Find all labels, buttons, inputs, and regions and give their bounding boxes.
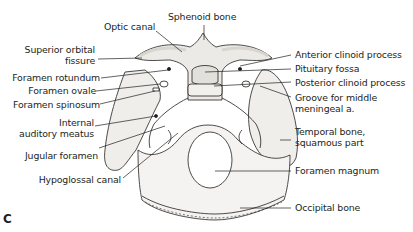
label-text: Temporal bone,: [295, 126, 365, 137]
label-posterior-clinoid-process: Posterior clinoid process: [295, 77, 405, 88]
label-text: Foramen spinosum: [13, 99, 100, 110]
label-text: Superior orbital: [25, 44, 95, 55]
label-foramen-spinosum: Foramen spinosum: [13, 99, 100, 110]
label-groove-middle-meningeal: Groove for middle meningeal a.: [295, 92, 377, 114]
label-hypoglossal-canal: Hypoglossal canal: [39, 174, 121, 185]
label-internal-auditory-meatus: Internal auditory meatus: [19, 117, 94, 139]
label-optic-canal: Optic canal: [104, 21, 155, 32]
panel-letter: C: [3, 212, 12, 226]
label-anterior-clinoid-process: Anterior clinoid process: [295, 49, 402, 60]
label-text: Anterior clinoid process: [295, 49, 402, 60]
label-text: Foramen ovale: [28, 85, 96, 96]
label-sphenoid-bone: Sphenoid bone: [168, 11, 236, 22]
label-foramen-rotundum: Foramen rotundum: [12, 72, 100, 83]
skull-base-drawing: [0, 0, 413, 232]
label-temporal-bone-squamous: Temporal bone, squamous part: [295, 126, 365, 148]
label-text: Optic canal: [104, 21, 155, 32]
label-text: Occipital bone: [295, 202, 360, 213]
label-text: Pituitary fossa: [295, 63, 359, 74]
label-text: Foramen rotundum: [12, 72, 100, 83]
label-text: Groove for middle: [295, 92, 377, 103]
label-jugular-foramen: Jugular foramen: [25, 150, 98, 161]
label-text: Hypoglossal canal: [39, 174, 121, 185]
label-text: meningeal a.: [295, 103, 377, 114]
pituitary-fossa-shape: [192, 66, 218, 86]
skull-base-diagram: Optic canal Sphenoid bone Superior orbit…: [0, 0, 413, 232]
label-text: fissure: [25, 55, 95, 66]
label-foramen-ovale: Foramen ovale: [28, 85, 96, 96]
label-text: squamous part: [295, 137, 365, 148]
foramen-magnum-shape: [188, 132, 232, 188]
label-text: Posterior clinoid process: [295, 77, 405, 88]
label-text: Jugular foramen: [25, 150, 98, 161]
label-text: Foramen magnum: [295, 165, 379, 176]
label-foramen-magnum: Foramen magnum: [295, 165, 379, 176]
label-text: auditory meatus: [19, 128, 94, 139]
label-text: Sphenoid bone: [168, 11, 236, 22]
label-pituitary-fossa: Pituitary fossa: [295, 63, 359, 74]
label-superior-orbital-fissure: Superior orbital fissure: [25, 44, 95, 66]
label-occipital-bone: Occipital bone: [295, 202, 360, 213]
label-text: Internal: [19, 117, 94, 128]
